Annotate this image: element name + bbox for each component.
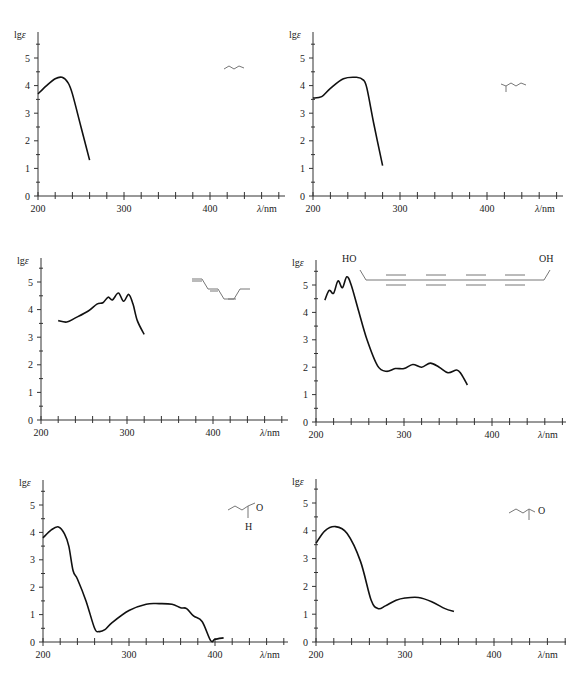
x-tick-label: 300 [120, 427, 135, 438]
h-label: H [245, 521, 252, 532]
x-tick-label: 300 [117, 203, 132, 214]
y-tick-label: 3 [300, 108, 305, 119]
spectrum-panel-2: 012345200300400λ/nmlgε [289, 29, 563, 214]
x-axis-label: λ/nm [537, 429, 558, 440]
y-tick-label: 1 [30, 609, 35, 620]
x-axis-label: λ/nm [259, 427, 280, 438]
x-axis-label: λ/nm [537, 649, 558, 660]
x-tick-label: 400 [203, 203, 218, 214]
y-tick-label: 4 [303, 307, 308, 318]
x-tick-label: 200 [309, 649, 324, 660]
y-axis-label: lgε [292, 476, 304, 487]
x-tick-label: 400 [206, 427, 221, 438]
x-tick-label: 300 [397, 429, 412, 440]
y-axis-label: lgε [289, 29, 301, 40]
x-axis-label: λ/nm [256, 203, 277, 214]
structure-methyl-ketone [509, 509, 535, 520]
y-tick-label: 4 [30, 527, 35, 538]
y-tick-label: 3 [25, 108, 30, 119]
structure-crotonaldehyde [228, 503, 255, 518]
spectrum-panel-6: 012345200300400λ/nmlgε [292, 476, 566, 660]
x-tick-label: 400 [485, 429, 500, 440]
y-tick-label: 1 [28, 387, 33, 398]
y-tick-label: 5 [300, 53, 305, 64]
y-tick-label: 5 [28, 277, 33, 288]
x-tick-label: 200 [309, 429, 324, 440]
y-tick-label: 3 [30, 554, 35, 565]
y-tick-label: 2 [28, 359, 33, 370]
x-tick-label: 300 [122, 649, 137, 660]
o-label: O [538, 505, 545, 516]
x-axis-label: λ/nm [534, 203, 555, 214]
y-tick-label: 4 [300, 80, 305, 91]
spectrum-panel-1: 012345200300400λ/nmlgε [14, 29, 285, 214]
y-axis-label: lgε [19, 477, 31, 488]
y-tick-label: 2 [303, 581, 308, 592]
structure-methyl-diene [501, 83, 526, 92]
y-tick-label: 3 [28, 332, 33, 343]
x-tick-label: 400 [480, 203, 495, 214]
y-tick-label: 5 [303, 498, 308, 509]
x-tick-label: 200 [34, 427, 49, 438]
y-tick-label: 4 [28, 304, 33, 315]
x-tick-label: 200 [31, 203, 46, 214]
y-tick-label: 3 [303, 334, 308, 345]
y-tick-label: 5 [303, 280, 308, 291]
y-tick-label: 0 [303, 637, 308, 648]
y-tick-label: 0 [25, 191, 30, 202]
structure-diene [224, 66, 244, 69]
y-tick-label: 1 [303, 389, 308, 400]
y-tick-label: 0 [303, 417, 308, 428]
x-axis-label: λ/nm [259, 649, 280, 660]
y-axis-label: lgε [292, 257, 304, 268]
spectrum-panel-4: 012345200300400λ/nmlgε [292, 257, 566, 440]
oh-label: OH [539, 253, 553, 264]
y-tick-label: 4 [303, 525, 308, 536]
y-tick-label: 2 [25, 135, 30, 146]
y-axis-label: lgε [14, 29, 26, 40]
y-tick-label: 5 [30, 500, 35, 511]
structure-polyene [192, 279, 250, 299]
absorption-curve [313, 77, 383, 165]
y-tick-label: 2 [300, 135, 305, 146]
absorption-curve [58, 293, 144, 334]
o-label: O [256, 502, 263, 513]
spectrum-panel-3: 012345200300400λ/nmlgε [17, 255, 288, 438]
ho-label: HO [342, 253, 356, 264]
x-tick-label: 200 [306, 203, 321, 214]
absorption-curve [38, 77, 90, 160]
y-tick-label: 2 [303, 362, 308, 373]
y-tick-label: 1 [303, 609, 308, 620]
uv-spectra-figure: 012345200300400λ/nmlgε012345200300400λ/n… [0, 0, 584, 676]
x-tick-label: 300 [398, 649, 413, 660]
x-tick-label: 400 [487, 649, 502, 660]
absorption-curve [325, 277, 468, 385]
absorption-curve [43, 527, 224, 642]
y-tick-label: 0 [300, 191, 305, 202]
y-tick-label: 2 [30, 582, 35, 593]
spectrum-panel-5: 012345200300400λ/nmlgε [19, 477, 288, 660]
y-tick-label: 1 [300, 163, 305, 174]
y-tick-label: 3 [303, 553, 308, 564]
x-tick-label: 200 [36, 649, 51, 660]
y-axis-label: lgε [17, 255, 29, 266]
y-tick-label: 1 [25, 163, 30, 174]
x-tick-label: 300 [393, 203, 408, 214]
absorption-curve [316, 527, 454, 612]
y-tick-label: 4 [25, 80, 30, 91]
y-tick-label: 0 [28, 415, 33, 426]
y-tick-label: 0 [30, 637, 35, 648]
y-tick-label: 5 [25, 53, 30, 64]
x-tick-label: 400 [208, 649, 223, 660]
